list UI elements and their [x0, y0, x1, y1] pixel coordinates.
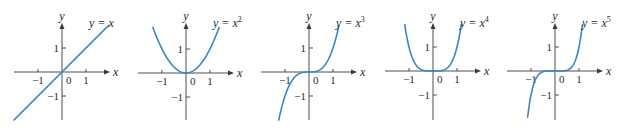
y-axis-arrow-icon: [184, 23, 189, 29]
y-axis-label: y: [551, 9, 558, 23]
x-axis-label: x: [605, 64, 612, 78]
y-tick-label: −1: [47, 90, 59, 102]
x-axis-arrow-icon: [104, 70, 110, 75]
y-axis-arrow-icon: [60, 23, 65, 29]
power-functions-figure: −1011−1xyy = x−1011−1xyy = x2−1011−1xyy …: [0, 0, 624, 128]
x-axis-label: x: [112, 65, 119, 79]
x-axis-arrow-icon: [475, 69, 481, 74]
x-axis-label: x: [359, 65, 366, 79]
y-axis-label: y: [58, 9, 65, 23]
y-axis-arrow-icon: [307, 23, 312, 29]
y-axis-label: y: [182, 9, 189, 23]
graph-panel-3: −1011−1xyy = x3: [261, 9, 366, 120]
x-tick-label: 0: [559, 73, 565, 85]
graph-panel-2: −1011−1xyy = x2: [138, 9, 243, 120]
x-tick-label: 1: [207, 75, 213, 87]
x-tick-label: −1: [156, 75, 168, 87]
x-tick-label: 1: [83, 74, 89, 86]
y-axis-label: y: [305, 9, 312, 23]
graph-panel-4: −1011−1xyy = x4: [385, 9, 490, 120]
y-tick-label: −1: [540, 89, 552, 101]
x-axis-arrow-icon: [228, 71, 234, 76]
equation-label: y = x5: [581, 15, 611, 30]
y-axis-label: y: [429, 9, 436, 23]
x-tick-label: 0: [66, 74, 72, 86]
x-tick-label: 0: [190, 75, 196, 87]
x-axis-arrow-icon: [351, 70, 357, 75]
graph-panel-1: −1011−1xyy = x: [14, 9, 119, 120]
x-tick-label: 1: [576, 73, 582, 85]
y-tick-label: 1: [54, 42, 60, 54]
equation-label: y = x2: [212, 15, 242, 30]
x-tick-label: −1: [32, 74, 44, 86]
y-tick-label: −1: [418, 89, 430, 101]
x-tick-label: −1: [403, 73, 415, 85]
y-tick-label: 1: [547, 41, 553, 53]
x-tick-label: 0: [313, 74, 319, 86]
equation-label: y = x: [88, 16, 114, 30]
y-tick-label: −1: [294, 90, 306, 102]
y-tick-label: 1: [425, 41, 431, 53]
y-axis-arrow-icon: [553, 23, 558, 29]
graph-panel-5: −1011−1xyy = x5: [507, 9, 612, 120]
x-axis-label: x: [483, 64, 490, 78]
function-curve: [14, 25, 109, 120]
equation-label: y = x4: [459, 15, 489, 30]
x-tick-label: 1: [330, 74, 336, 86]
y-tick-label: 1: [178, 43, 184, 55]
x-tick-label: 1: [454, 73, 460, 85]
x-tick-label: 0: [437, 73, 443, 85]
equation-label: y = x3: [335, 15, 365, 30]
y-tick-label: 1: [301, 42, 307, 54]
y-axis-arrow-icon: [431, 23, 436, 29]
x-axis-label: x: [236, 66, 243, 80]
x-axis-arrow-icon: [597, 69, 603, 74]
y-tick-label: −1: [171, 91, 183, 103]
